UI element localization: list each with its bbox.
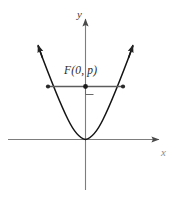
x-axis-label: x (161, 147, 166, 158)
latus-rectum-right-point (121, 84, 125, 88)
focus-point (83, 84, 88, 89)
y-axis-label: y (77, 9, 82, 20)
parabola-arm-arrow-right-icon (129, 45, 134, 58)
focus-label: F(0, p) (64, 65, 97, 77)
parabola-figure: y x F(0, p) (0, 0, 191, 198)
parabola-arm-arrow-left-icon (38, 45, 43, 58)
latus-rectum-left-point (46, 84, 50, 88)
parabola-diagram-canvas (0, 0, 191, 198)
